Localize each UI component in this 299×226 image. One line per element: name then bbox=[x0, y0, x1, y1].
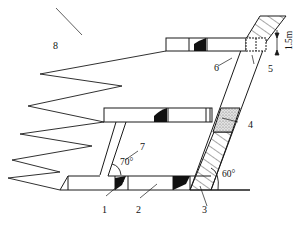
angle-label-70: 70° bbox=[120, 157, 134, 167]
orebody-filled-stipple bbox=[213, 108, 240, 132]
dimension-label: 1.5m bbox=[284, 30, 294, 50]
label-1: 1 bbox=[102, 204, 107, 215]
label-7: 7 bbox=[140, 141, 145, 152]
raise-7 bbox=[100, 122, 126, 176]
mining-section-diagram: 8 1 2 3 4 5 6 7 70° 60° 1.5m bbox=[0, 0, 299, 226]
label-5: 5 bbox=[268, 63, 273, 74]
label-4: 4 bbox=[248, 119, 253, 130]
label-3: 3 bbox=[202, 204, 207, 215]
angle-label-60: 60° bbox=[222, 169, 236, 179]
label-8: 8 bbox=[53, 40, 58, 51]
label-2: 2 bbox=[136, 204, 141, 215]
upper-level-drift bbox=[166, 38, 266, 51]
orebody-hatched-lower bbox=[190, 132, 232, 190]
label-6: 6 bbox=[214, 62, 219, 73]
middle-level-drift bbox=[104, 108, 212, 122]
dimension-1-5m bbox=[275, 30, 279, 55]
